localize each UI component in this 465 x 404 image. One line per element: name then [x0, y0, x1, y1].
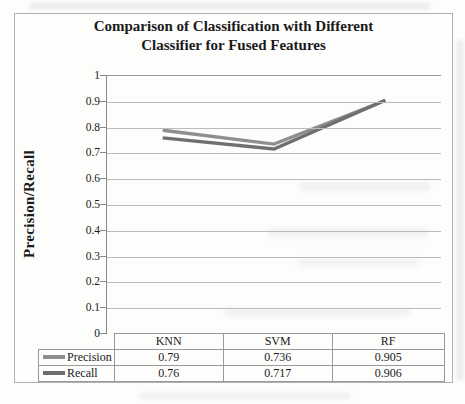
value-cell: 0.736 [223, 350, 332, 366]
category-header-cell: SVM [223, 334, 332, 350]
gridline [107, 102, 441, 103]
scan-artifact [30, 3, 430, 9]
gridline [107, 153, 441, 154]
series-line-precision [163, 101, 386, 145]
y-tick-label: 0.7 [60, 145, 100, 159]
legend-cell: Precision [39, 350, 115, 366]
plot-area [106, 75, 441, 334]
data-table: KNNSVMRFPrecision0.790.7360.905Recall0.7… [38, 333, 445, 382]
y-tick-label: 0.4 [60, 223, 100, 237]
y-tick-label: 0.3 [60, 249, 100, 263]
legend-marker-recall [43, 371, 65, 375]
category-header-cell: RF [332, 334, 444, 350]
legend-label: Precision [67, 350, 112, 364]
gridline [107, 308, 441, 309]
data-table-corner-cell [39, 334, 115, 350]
chart-title-line1: Comparison of Classification with Differ… [14, 17, 453, 36]
legend-cell: Recall [39, 366, 115, 382]
scan-artifact [457, 40, 463, 380]
y-tick-label: 1 [60, 68, 100, 82]
gridline [107, 179, 441, 180]
category-header-cell: KNN [114, 334, 223, 350]
data-table-row: Recall0.760.7170.906 [39, 366, 445, 382]
gridline [107, 257, 441, 258]
data-table-header-row: KNNSVMRF [39, 334, 445, 350]
gridline [107, 128, 441, 129]
chart-title-line2: Classifier for Fused Features [14, 36, 453, 55]
value-cell: 0.76 [114, 366, 223, 382]
scan-artifact [140, 393, 350, 399]
gridline [107, 282, 441, 283]
scanned-chart-page: { "figure": { "title_line1": "Comparison… [0, 0, 465, 404]
y-tick-label: 0.6 [60, 171, 100, 185]
data-table-row: Precision0.790.7360.905 [39, 350, 445, 366]
y-axis-title: Precision/Recall [21, 75, 39, 333]
gridline [107, 231, 441, 232]
y-tick-label: 0.1 [60, 300, 100, 314]
legend-marker-precision [43, 355, 65, 359]
value-cell: 0.717 [223, 366, 332, 382]
value-cell: 0.906 [332, 366, 444, 382]
legend-label: Recall [67, 366, 98, 380]
y-tick-label: 0.5 [60, 197, 100, 211]
y-tick-label: 0.8 [60, 120, 100, 134]
value-cell: 0.905 [332, 350, 444, 366]
value-cell: 0.79 [114, 350, 223, 366]
y-tick-label: 0.9 [60, 94, 100, 108]
series-line-recall [163, 100, 386, 149]
y-tick-label: 0.2 [60, 274, 100, 288]
chart-title: Comparison of Classification with Differ… [14, 17, 453, 55]
gridline [107, 205, 441, 206]
